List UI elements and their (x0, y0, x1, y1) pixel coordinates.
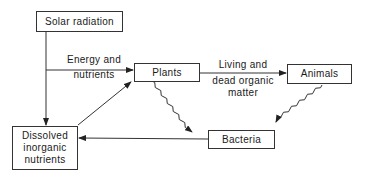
edge-label-organic-line2: dead organic (205, 75, 281, 87)
node-solar-radiation-label: Solar radiation (45, 16, 114, 28)
node-dissolved-line1: Dissolved (22, 130, 68, 142)
edge-dissolved-to-plants (78, 82, 131, 125)
node-bacteria: Bacteria (208, 130, 275, 149)
node-bacteria-label: Bacteria (222, 134, 261, 146)
node-solar-radiation: Solar radiation (36, 11, 123, 32)
node-dissolved-line3: nutrients (24, 154, 65, 166)
node-dissolved-line2: inorganic (23, 142, 66, 154)
edge-label-energy-line1: Energy and (62, 54, 126, 66)
node-animals: Animals (287, 64, 352, 84)
node-animals-label: Animals (301, 68, 339, 80)
node-plants-label: Plants (152, 67, 182, 79)
edge-plants-to-bacteria-wavy (152, 81, 192, 132)
edge-label-living-dead-organic-matter: Living and dead organic matter (205, 59, 281, 99)
node-plants: Plants (134, 63, 200, 82)
edge-bacteria-to-dissolved (79, 138, 208, 139)
edge-animals-to-bacteria-wavy (276, 85, 322, 122)
edge-label-organic-line1: Living and (205, 59, 281, 71)
edge-label-energy-and-nutrients: Energy and nutrients (62, 54, 126, 81)
node-dissolved-inorganic-nutrients: Dissolved inorganic nutrients (12, 126, 78, 170)
edge-label-energy-line2: nutrients (62, 69, 126, 81)
edge-label-organic-line3: matter (205, 87, 281, 99)
